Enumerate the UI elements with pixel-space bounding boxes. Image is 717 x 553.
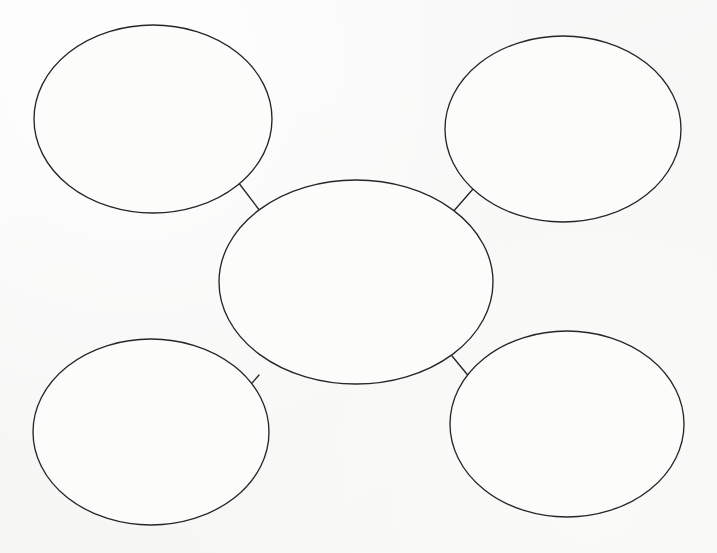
bubble-map-diagram	[0, 0, 717, 553]
node-group	[33, 25, 684, 525]
bubble-top-right[interactable]	[445, 36, 681, 222]
worksheet-page: Blank bubble map graphic organizer: a la…	[0, 0, 717, 553]
bubble-bottom-right-shape[interactable]	[450, 331, 684, 517]
bubble-center-shape[interactable]	[219, 180, 493, 384]
bubble-top-left[interactable]	[34, 25, 272, 213]
bubble-top-left-shape[interactable]	[34, 25, 272, 213]
connector-top-right	[452, 189, 473, 213]
bubble-bottom-right[interactable]	[450, 331, 684, 517]
bubble-center[interactable]	[219, 180, 493, 384]
bubble-top-right-shape[interactable]	[445, 36, 681, 222]
connector-top-left	[238, 182, 260, 211]
bubble-bottom-left[interactable]	[33, 339, 269, 525]
bubble-bottom-left-shape[interactable]	[33, 339, 269, 525]
